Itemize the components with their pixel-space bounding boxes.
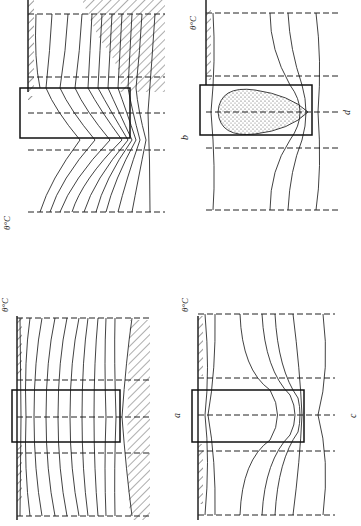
panel-label-b: b: [179, 135, 190, 140]
panel-label-c: c: [347, 413, 358, 418]
panel-label-d: d: [341, 109, 352, 115]
axis-label-d: θ°C: [188, 15, 198, 30]
panel-a: θ°C a: [0, 297, 182, 520]
isotherm-figure: θ°C b θ°C d: [0, 0, 361, 526]
panel-label-a: a: [171, 413, 182, 418]
axis-label-b: θ°C: [2, 215, 12, 230]
panel-b: θ°C b: [2, 0, 190, 230]
panel-d: θ°C d: [188, 0, 352, 210]
panel-c: θ°C c: [180, 297, 358, 520]
axis-label-a: θ°C: [0, 297, 10, 312]
axis-label-c: θ°C: [180, 297, 190, 312]
